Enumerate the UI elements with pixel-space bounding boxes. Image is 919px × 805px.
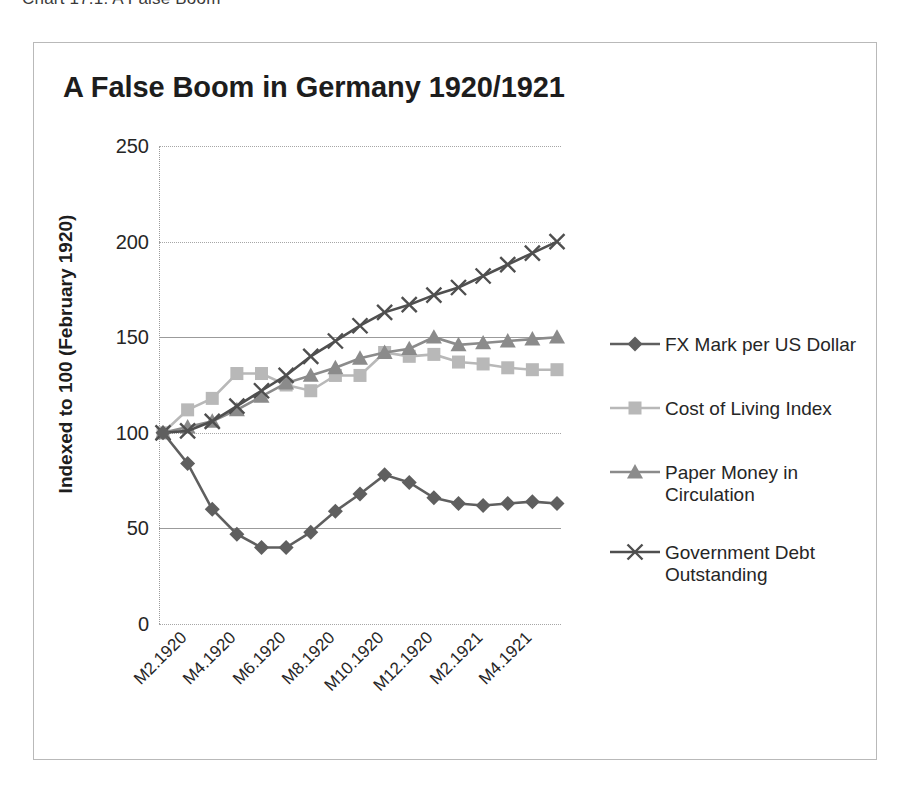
legend-item-2[interactable]: Paper Money in Circulation bbox=[609, 461, 859, 507]
legend-marker-triangle-icon bbox=[609, 459, 661, 485]
chart-legend: FX Mark per US DollarCost of Living Inde… bbox=[609, 333, 859, 621]
y-tick-label-0: 0 bbox=[138, 613, 149, 636]
series-plot bbox=[159, 146, 561, 624]
plot-area: 050100150200250 bbox=[159, 146, 561, 624]
legend-item-1[interactable]: Cost of Living Index bbox=[609, 397, 859, 427]
y-tick-label-200: 200 bbox=[116, 230, 149, 253]
series-fx-mark-per-us-dollar bbox=[156, 425, 565, 555]
chart-title: A False Boom in Germany 1920/1921 bbox=[34, 71, 594, 104]
legend-marker-square-icon bbox=[609, 395, 661, 421]
x-tick-label-7: M4.1921 bbox=[475, 628, 536, 689]
chart-frame: A False Boom in Germany 1920/1921 Indexe… bbox=[33, 42, 877, 760]
legend-item-0[interactable]: FX Mark per US Dollar bbox=[609, 333, 859, 363]
y-tick-label-150: 150 bbox=[116, 326, 149, 349]
x-tick-label-1: M4.1920 bbox=[179, 628, 240, 689]
legend-label-3: Government Debt Outstanding bbox=[665, 541, 859, 587]
series-paper-money-in-circulation bbox=[155, 329, 565, 439]
legend-marker-diamond-icon bbox=[609, 331, 661, 357]
legend-item-3[interactable]: Government Debt Outstanding bbox=[609, 541, 859, 587]
gridline-0 bbox=[159, 624, 561, 625]
legend-label-2: Paper Money in Circulation bbox=[665, 461, 859, 507]
y-axis-title: Indexed to 100 (February 1920) bbox=[55, 214, 77, 494]
legend-label-0: FX Mark per US Dollar bbox=[665, 333, 856, 356]
x-axis-tick-labels: M2.1920M4.1920M6.1920M8.1920M10.1920M12.… bbox=[159, 628, 561, 738]
x-tick-label-2: M6.1920 bbox=[229, 628, 290, 689]
y-tick-label-250: 250 bbox=[116, 135, 149, 158]
x-tick-label-0: M2.1920 bbox=[130, 628, 191, 689]
series-government-debt-outstanding bbox=[156, 234, 565, 440]
x-tick-label-6: M2.1921 bbox=[426, 628, 487, 689]
y-tick-label-50: 50 bbox=[127, 517, 149, 540]
legend-label-1: Cost of Living Index bbox=[665, 397, 832, 420]
legend-marker-x-icon bbox=[609, 539, 661, 565]
figure-caption: Chart 17.1: A False Boom bbox=[22, 0, 221, 9]
y-tick-label-100: 100 bbox=[116, 421, 149, 444]
